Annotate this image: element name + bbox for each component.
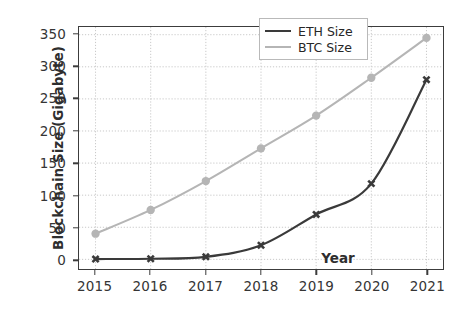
chart-legend: ETH Size BTC Size xyxy=(259,18,368,60)
legend-item-btc: BTC Size xyxy=(265,39,361,55)
y-tick-label: 0 xyxy=(0,252,66,268)
legend-label-eth: ETH Size xyxy=(298,24,353,39)
legend-swatch-eth xyxy=(265,30,291,32)
y-axis-title: Blockchain Size (Gigabyte) xyxy=(50,46,66,250)
data-series xyxy=(79,27,443,269)
chart-figure: 050100150200250300350 Blockchain Size (G… xyxy=(0,0,463,319)
legend-swatch-btc xyxy=(265,46,291,48)
x-axis-title: Year xyxy=(321,250,354,266)
y-tick-label: 350 xyxy=(0,26,66,42)
plot-area xyxy=(78,26,444,270)
legend-item-eth: ETH Size xyxy=(265,23,361,39)
legend-label-btc: BTC Size xyxy=(298,40,352,55)
